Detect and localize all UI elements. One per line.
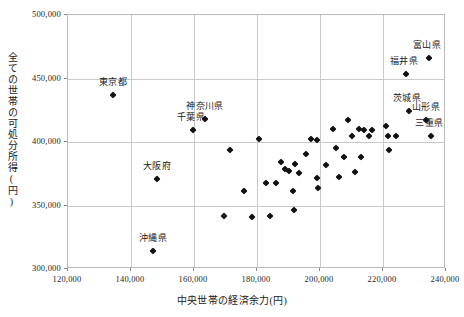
x-axis-tick-label: 180,000 xyxy=(241,274,270,284)
x-axis-tick-mark xyxy=(445,268,446,271)
data-point xyxy=(335,173,342,180)
x-axis-title: 中央世帯の経済余力(円) xyxy=(0,292,464,307)
data-point-labeled xyxy=(428,133,435,140)
y-axis-tick-mark xyxy=(64,141,67,142)
data-point xyxy=(340,154,347,161)
data-point xyxy=(291,206,298,213)
y-axis-tick-mark xyxy=(64,78,67,79)
gridline-vertical xyxy=(320,15,321,267)
data-point xyxy=(384,133,391,140)
data-point xyxy=(351,168,358,175)
x-axis-tick-mark xyxy=(193,268,194,271)
data-point xyxy=(249,213,256,220)
y-axis-tick-label: 500,000 xyxy=(9,9,61,19)
data-point xyxy=(241,187,248,194)
gridline-horizontal xyxy=(68,142,444,143)
data-point xyxy=(272,180,279,187)
x-axis-tick-label: 120,000 xyxy=(52,274,81,284)
data-point-label: 大阪府 xyxy=(143,159,171,172)
data-point xyxy=(357,153,364,160)
data-point-label: 三重県 xyxy=(415,116,443,129)
gridline-vertical xyxy=(131,15,132,267)
data-point xyxy=(295,170,302,177)
data-point xyxy=(361,126,368,133)
data-point-labeled xyxy=(109,91,116,98)
gridline-horizontal xyxy=(68,206,444,207)
data-point-label: 千葉県 xyxy=(177,110,205,123)
data-point-labeled xyxy=(150,247,157,254)
gridline-vertical xyxy=(383,15,384,267)
data-point xyxy=(226,146,233,153)
x-axis-tick-label: 140,000 xyxy=(115,274,144,284)
data-point xyxy=(220,213,227,220)
y-axis-tick-label: 300,000 xyxy=(9,263,61,273)
x-axis-tick-mark xyxy=(256,268,257,271)
data-point xyxy=(345,117,352,124)
data-point xyxy=(329,125,336,132)
data-point xyxy=(291,161,298,168)
x-axis-tick-label: 160,000 xyxy=(178,274,207,284)
y-axis-title: 全ての世帯の可処分所得(円) xyxy=(4,52,19,208)
data-point-label: 山形県 xyxy=(412,100,440,113)
data-point xyxy=(263,180,270,187)
x-axis-tick-label: 200,000 xyxy=(304,274,333,284)
data-point-labeled xyxy=(425,55,432,62)
y-axis-tick-mark xyxy=(64,268,67,269)
data-point xyxy=(392,133,399,140)
x-axis-tick-label: 240,000 xyxy=(430,274,459,284)
data-point-label: 沖縄県 xyxy=(139,231,167,244)
data-point xyxy=(302,151,309,158)
gridline-vertical xyxy=(194,15,195,267)
x-axis-tick-label: 220,000 xyxy=(367,274,396,284)
data-point xyxy=(323,162,330,169)
data-point xyxy=(348,133,355,140)
data-point xyxy=(277,159,284,166)
data-point xyxy=(332,145,339,152)
data-point-label: 富山県 xyxy=(413,38,441,51)
x-axis-tick-mark xyxy=(382,268,383,271)
data-point xyxy=(286,168,293,175)
scatter-chart-figure: 東京都神奈川県千葉県大阪府沖縄県富山県福井県茨城県山形県三重県 120,0001… xyxy=(0,0,464,317)
data-point-label: 福井県 xyxy=(390,54,418,67)
data-point-labeled xyxy=(154,176,161,183)
data-point-labeled xyxy=(402,71,409,78)
data-point-labeled xyxy=(190,126,197,133)
y-axis-tick-mark xyxy=(64,205,67,206)
x-axis-tick-mark xyxy=(319,268,320,271)
data-point xyxy=(365,133,372,140)
data-point xyxy=(289,187,296,194)
data-point xyxy=(386,146,393,153)
x-axis-tick-mark xyxy=(67,268,68,271)
y-axis-tick-mark xyxy=(64,14,67,15)
plot-area: 東京都神奈川県千葉県大阪府沖縄県富山県福井県茨城県山形県三重県 xyxy=(67,14,445,268)
x-axis-tick-mark xyxy=(130,268,131,271)
data-point-label: 東京都 xyxy=(99,75,127,88)
data-point xyxy=(266,213,273,220)
